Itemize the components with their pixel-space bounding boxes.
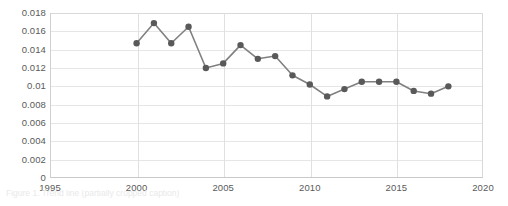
gridline-vertical xyxy=(224,13,225,177)
y-axis-tick-label: 0.018 xyxy=(4,8,46,18)
y-axis-tick-label: 0.006 xyxy=(4,118,46,128)
gridline-vertical xyxy=(397,13,398,177)
y-axis-tick-label: 0.01 xyxy=(4,81,46,91)
gridline-horizontal xyxy=(51,141,482,142)
figure-caption-strip: Figure 1. Trend line (partially cropped … xyxy=(0,190,508,206)
y-axis-tick-label: 0.016 xyxy=(4,26,46,36)
gridline-horizontal xyxy=(51,160,482,161)
line-chart-figure: 0.0180.0160.0140.0120.010.0080.0060.0040… xyxy=(0,0,508,206)
y-axis-tick-label: 0.004 xyxy=(4,136,46,146)
gridline-horizontal xyxy=(51,105,482,106)
gridline-vertical xyxy=(138,13,139,177)
figure-caption: Figure 1. Trend line (partially cropped … xyxy=(6,190,179,198)
gridline-horizontal xyxy=(51,86,482,87)
gridline-vertical xyxy=(311,13,312,177)
y-axis-tick-label: 0.008 xyxy=(4,100,46,110)
chart-plot-area xyxy=(50,13,483,178)
gridline-horizontal xyxy=(51,50,482,51)
y-axis-tick-label: 0.014 xyxy=(4,45,46,55)
y-axis-tick-labels: 0.0180.0160.0140.0120.010.0080.0060.0040… xyxy=(0,0,46,190)
y-axis-tick-label: 0.002 xyxy=(4,155,46,165)
gridline-horizontal xyxy=(51,13,482,14)
gridline-horizontal xyxy=(51,68,482,69)
y-axis-tick-label: 0.012 xyxy=(4,63,46,73)
gridline-horizontal xyxy=(51,31,482,32)
chart-plot-wrapper: 0.0180.0160.0140.0120.010.0080.0060.0040… xyxy=(0,0,508,190)
gridline-horizontal xyxy=(51,123,482,124)
